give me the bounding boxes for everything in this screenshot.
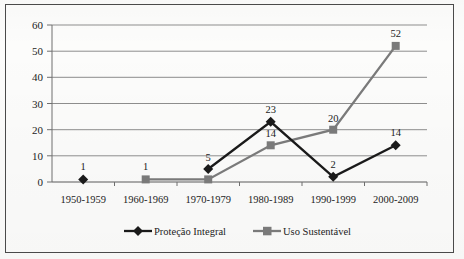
data-label-protecao-1950-1959: 1 xyxy=(81,161,86,172)
y-axis-label-60: 60 xyxy=(32,19,44,31)
y-axis-label-50: 50 xyxy=(32,45,44,57)
x-axis-label-2000-2009: 2000-2009 xyxy=(373,194,419,205)
y-axis-label-20: 20 xyxy=(32,124,44,136)
series-protecao-integral xyxy=(78,117,401,185)
y-axis-label-30: 30 xyxy=(32,98,44,110)
x-axis-label-1960-1969: 1960-1969 xyxy=(123,194,169,205)
data-label-uso-2000-2009: 52 xyxy=(390,28,401,39)
y-axis-labels: 60 50 40 30 20 10 0 xyxy=(32,19,44,188)
data-label-protecao-1980-1989: 23 xyxy=(265,104,276,115)
legend-label-protecao-integral: Proteção Integral xyxy=(154,226,226,237)
marker-protecao-2000-2009 xyxy=(391,140,401,150)
x-axis-label-1980-1989: 1980-1989 xyxy=(248,194,294,205)
line-chart: 60 50 40 30 20 10 0 1950-1959 1960-1969 … xyxy=(0,0,464,259)
x-axis-ticks xyxy=(115,182,428,186)
x-axis-label-1990-1999: 1990-1999 xyxy=(310,194,356,205)
x-axis-label-1970-1979: 1970-1979 xyxy=(185,194,231,205)
chart-screenshot: 60 50 40 30 20 10 0 1950-1959 1960-1969 … xyxy=(0,0,464,259)
y-axis-label-0: 0 xyxy=(38,176,44,188)
y-axis xyxy=(47,25,52,182)
data-label-uso-1990-1999: 20 xyxy=(328,113,339,124)
y-axis-label-40: 40 xyxy=(32,71,44,83)
marker-uso-1960-1969 xyxy=(142,175,150,183)
marker-uso-1990-1999 xyxy=(329,126,337,134)
data-label-protecao-1990-1999: 2 xyxy=(331,159,336,170)
marker-protecao-1950-1959 xyxy=(78,174,88,184)
chart-legend: Proteção Integral Uso Sustentável xyxy=(124,226,351,237)
data-label-uso-1980-1989: 14 xyxy=(265,128,276,139)
data-point-labels: 1 1 5 23 14 20 2 52 14 xyxy=(81,28,402,172)
legend-item-uso-sustentavel[interactable]: Uso Sustentável xyxy=(253,226,351,237)
legend-item-protecao-integral[interactable]: Proteção Integral xyxy=(124,226,226,237)
data-label-protecao-2000-2009: 14 xyxy=(390,127,401,138)
data-label-uso-1960-1969: 1 xyxy=(143,161,148,172)
marker-uso-1980-1989 xyxy=(267,141,275,149)
legend-marker-square-icon xyxy=(263,227,272,236)
data-label-protecao-1970-1979: 5 xyxy=(206,152,211,163)
x-axis-label-1950-1959: 1950-1959 xyxy=(60,194,106,205)
x-axis-labels: 1950-1959 1960-1969 1970-1979 1980-1989 … xyxy=(60,194,418,205)
legend-marker-diamond-icon xyxy=(133,226,143,236)
legend-label-uso-sustentavel: Uso Sustentável xyxy=(283,226,351,237)
marker-uso-1970-1979 xyxy=(204,175,212,183)
y-axis-label-10: 10 xyxy=(32,150,44,162)
marker-uso-2000-2009 xyxy=(392,42,400,50)
